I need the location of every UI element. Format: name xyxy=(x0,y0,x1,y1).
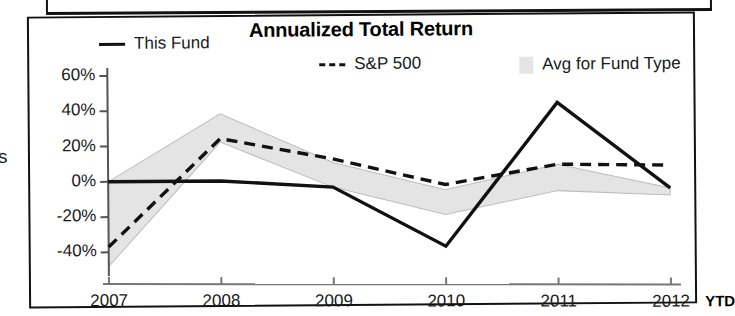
chart-plot-svg xyxy=(29,13,699,310)
x-axis-tick-label: 2012 xyxy=(636,291,706,312)
plot-area xyxy=(29,13,695,306)
y-axis-tick-label: 0% xyxy=(34,171,96,191)
x-axis-tick-label: 2010 xyxy=(411,291,481,312)
x-axis-tick-label: 2008 xyxy=(186,291,256,312)
y-axis-tick-label: 20% xyxy=(34,136,96,156)
x-axis-tick-label: 2009 xyxy=(299,291,369,312)
y-axis-tick-label: -40% xyxy=(35,241,97,261)
y-axis-tick-label: -20% xyxy=(34,206,96,226)
x-axis-tick-label: 2011 xyxy=(524,291,594,312)
y-axis-tick-label: 60% xyxy=(33,65,95,85)
chart-panel: Annualized Total Return This Fund S&P 50… xyxy=(27,11,697,308)
x-axis-ytd-label: YTD xyxy=(705,292,735,309)
y-axis-tick-label: 40% xyxy=(34,100,96,120)
x-axis-tick-label: 2007 xyxy=(74,291,144,312)
cropped-margin-text: s xyxy=(0,146,8,168)
